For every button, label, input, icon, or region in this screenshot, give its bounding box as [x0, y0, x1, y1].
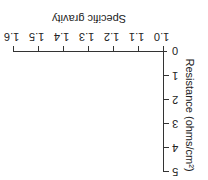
x-tick-label: 1.0 — [154, 31, 169, 42]
x-tick-label: 1.1 — [129, 31, 144, 42]
y-tick-label: 5 — [172, 166, 178, 177]
x-tick-label: 1.6 — [4, 31, 19, 42]
y-tick-label: 1 — [172, 70, 178, 81]
x-axis-label: Specific gravity — [52, 13, 126, 24]
x-tick-label: 1.3 — [79, 31, 94, 42]
y-tick-label: 4 — [172, 142, 178, 153]
y-tick-label: 3 — [172, 118, 178, 129]
y-tick-label: 2 — [172, 94, 178, 105]
y-axis-label: Resistance (ohms/cm²) — [184, 59, 195, 169]
x-tick-label: 1.2 — [104, 31, 119, 42]
x-tick-label: 1.5 — [29, 31, 44, 42]
x-tick-label: 1.4 — [54, 31, 69, 42]
chart: Specific gravity 1.0 1.1 1.2 1.3 1.4 1.5… — [0, 0, 208, 180]
y-tick-label: 0 — [172, 46, 178, 57]
